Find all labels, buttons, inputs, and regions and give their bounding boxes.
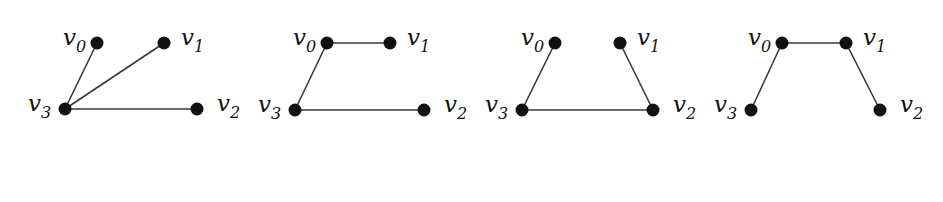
vertex-v1: [840, 37, 853, 50]
graph-4: v0v1v2v3: [714, 24, 923, 123]
vertex-label-v0: v0: [748, 24, 771, 56]
edge-v1-v2: [846, 43, 880, 110]
vertex-v0: [549, 37, 562, 50]
graph-1: v0v1v2v3: [28, 24, 240, 122]
vertex-v2: [191, 103, 204, 116]
vertex-label-v2: v2: [444, 91, 467, 123]
vertex-label-v0: v0: [63, 24, 86, 56]
vertex-v3: [59, 103, 72, 116]
vertex-v1: [614, 37, 627, 50]
vertex-label-v3: v3: [714, 91, 737, 123]
vertex-v2: [874, 104, 887, 117]
vertex-label-v2: v2: [673, 91, 696, 123]
vertex-v3: [516, 104, 529, 117]
vertex-label-v3: v3: [258, 91, 281, 123]
graph-3: v0v1v2v3: [485, 24, 696, 123]
vertex-label-v1: v1: [637, 24, 660, 56]
vertex-v0: [321, 37, 334, 50]
vertex-label-v1: v1: [181, 24, 204, 56]
vertex-label-v1: v1: [407, 24, 430, 56]
vertex-v1: [158, 37, 171, 50]
spanning-trees-figure: v0v1v2v3v0v1v2v3v0v1v2v3v0v1v2v3: [0, 0, 943, 202]
graph-2: v0v1v2v3: [258, 24, 467, 123]
vertex-label-v2: v2: [900, 91, 923, 123]
vertex-label-v1: v1: [863, 24, 886, 56]
vertex-v3: [745, 104, 758, 117]
vertex-v2: [418, 104, 431, 117]
vertex-label-v3: v3: [28, 90, 51, 122]
vertex-v0: [776, 37, 789, 50]
vertex-label-v3: v3: [485, 91, 508, 123]
vertex-label-v2: v2: [217, 90, 240, 122]
vertex-v0: [91, 37, 104, 50]
vertex-label-v0: v0: [521, 24, 544, 56]
vertex-v1: [384, 37, 397, 50]
vertex-v3: [289, 104, 302, 117]
edge-v2-v1: [620, 43, 653, 110]
vertex-label-v0: v0: [293, 24, 316, 56]
graph-diagram-canvas: v0v1v2v3v0v1v2v3v0v1v2v3v0v1v2v3: [0, 0, 943, 202]
vertex-v2: [647, 104, 660, 117]
